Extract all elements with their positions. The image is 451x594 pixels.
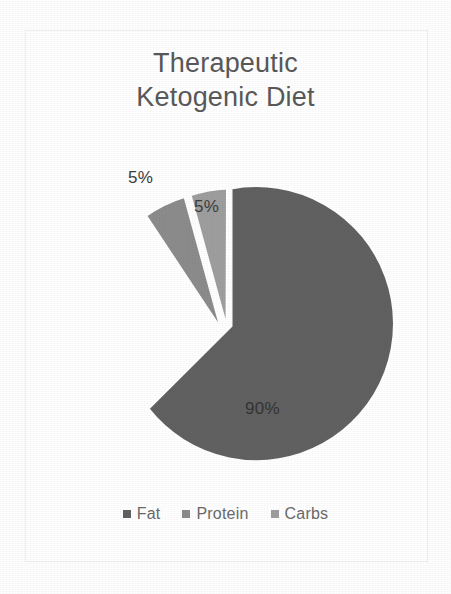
legend-label-protein: Protein <box>196 505 248 523</box>
legend-item-fat[interactable]: Fat <box>123 505 161 523</box>
pie-label-carbs: 5% <box>194 197 219 217</box>
legend-item-carbs[interactable]: Carbs <box>271 505 329 523</box>
legend-label-carbs: Carbs <box>285 505 329 523</box>
chart-page: Therapeutic Ketogenic Diet 5% 5% 90% Fat… <box>0 0 451 594</box>
legend-swatch-protein-icon <box>182 510 190 518</box>
pie-label-fat: 90% <box>245 399 280 419</box>
legend-swatch-carbs-icon <box>271 510 279 518</box>
pie-label-protein: 5% <box>128 168 153 188</box>
chart-legend: Fat Protein Carbs <box>0 505 451 523</box>
legend-label-fat: Fat <box>137 505 161 523</box>
legend-swatch-fat-icon <box>123 510 131 518</box>
legend-item-protein[interactable]: Protein <box>182 505 248 523</box>
